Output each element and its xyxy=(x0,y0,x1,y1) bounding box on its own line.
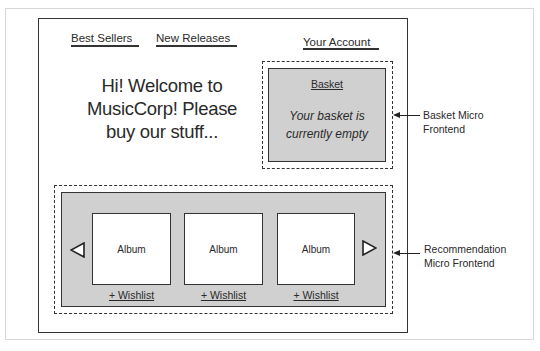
carousel-prev-button[interactable] xyxy=(70,242,86,262)
basket-message-line: Your basket is xyxy=(269,107,385,125)
triangle-left-icon xyxy=(70,242,86,258)
wishlist-link[interactable]: + Wishlist xyxy=(92,289,171,301)
callout-line: Micro Frontend xyxy=(424,256,506,270)
basket-title[interactable]: Basket xyxy=(269,78,385,90)
album-label: Album xyxy=(302,244,330,255)
welcome-line: Hi! Welcome to xyxy=(72,74,252,97)
nav-underline xyxy=(156,45,237,47)
nav-link-label: Your Account xyxy=(303,36,370,48)
album-label: Album xyxy=(117,244,145,255)
callout-line: Recommendation xyxy=(424,242,506,256)
wishlist-link[interactable]: + Wishlist xyxy=(277,289,355,301)
basket-callout-label: Basket Micro Frontend xyxy=(423,108,484,136)
nav-underline xyxy=(71,45,139,47)
nav-link-label: New Releases xyxy=(156,32,230,44)
nav-link-label: Best Sellers xyxy=(71,32,132,44)
carousel-next-button[interactable] xyxy=(361,240,377,260)
album-card[interactable]: Album xyxy=(92,213,171,285)
album-card[interactable]: Album xyxy=(184,213,263,285)
nav-link-new-releases[interactable]: New Releases xyxy=(156,32,230,44)
album-card[interactable]: Album xyxy=(277,213,355,285)
welcome-line: MusicCorp! Please xyxy=(72,97,252,120)
welcome-line: buy our stuff... xyxy=(72,120,252,143)
nav-link-your-account[interactable]: Your Account xyxy=(303,36,370,48)
album-label: Album xyxy=(209,244,237,255)
basket-empty-message: Your basket is currently empty xyxy=(269,107,385,143)
nav-link-best-sellers[interactable]: Best Sellers xyxy=(71,32,132,44)
callout-line: Basket Micro xyxy=(423,108,484,122)
welcome-heading: Hi! Welcome to MusicCorp! Please buy our… xyxy=(72,74,252,143)
callout-arrow-line xyxy=(398,115,420,116)
recommendation-callout-label: Recommendation Micro Frontend xyxy=(424,242,506,270)
callout-arrow-line xyxy=(398,253,420,254)
nav-underline xyxy=(303,48,379,50)
triangle-right-icon xyxy=(361,240,377,256)
basket-message-line: currently empty xyxy=(269,125,385,143)
basket-panel: Basket Your basket is currently empty xyxy=(268,68,386,162)
callout-line: Frontend xyxy=(423,122,484,136)
wishlist-link[interactable]: + Wishlist xyxy=(184,289,263,301)
